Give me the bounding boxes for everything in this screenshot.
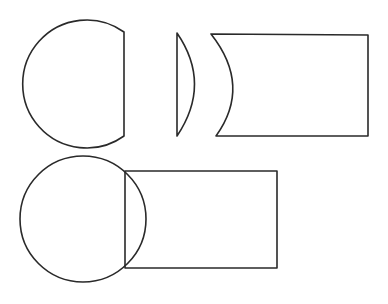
geometry-diagram	[0, 0, 388, 304]
notched-rectangle-shape	[211, 34, 368, 136]
truncated-circle-shape	[23, 20, 124, 148]
diagram-canvas	[0, 0, 388, 304]
circular-segment-shape	[177, 33, 195, 136]
full-circle-shape	[20, 156, 146, 282]
rectangle-shape	[125, 171, 277, 268]
